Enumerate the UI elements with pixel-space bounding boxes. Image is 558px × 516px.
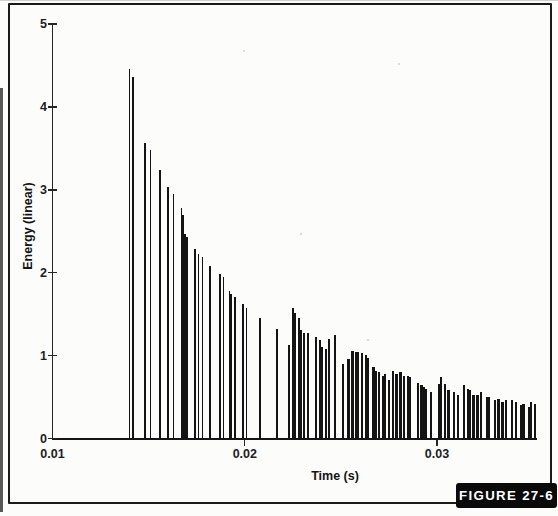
energy-spike [457,395,459,439]
energy-spike [374,371,376,440]
energy-spike [132,77,134,439]
energy-spike [469,390,471,439]
energy-spike [515,402,517,440]
energy-spike [347,359,349,440]
energy-spike [447,390,449,439]
y-tick-mark [48,106,57,108]
energy-spike [430,392,432,439]
x-tick-label: 0.03 [415,447,459,462]
energy-spike [494,400,496,439]
energy-spike [144,143,146,439]
energy-spike [223,277,225,440]
energy-spike [129,69,131,440]
y-axis-title: Energy (linear) [21,166,37,286]
energy-spike [403,376,405,440]
energy-spike [294,313,296,439]
scanned-figure-page: 0123450.010.020.03 Energy (linear) Time … [0,0,558,516]
energy-spike [497,399,499,440]
energy-spike [242,304,244,439]
energy-spike [198,254,200,440]
energy-spike [453,392,455,439]
y-tick-mark [48,355,57,357]
energy-spike [334,335,336,440]
energy-spike [534,404,536,440]
energy-spike [384,374,386,440]
x-tick-label: 0.01 [31,447,75,462]
y-tick-mark [48,438,57,440]
energy-spike [505,400,507,439]
energy-spike [511,400,513,439]
energy-spike [194,249,196,440]
y-tick-label: 5 [25,16,47,32]
energy-spike [186,237,188,439]
energy-spike [300,330,302,440]
energy-spike [480,392,482,439]
energy-spike [501,402,503,440]
energy-decay-chart: 0123450.010.020.03 [0,0,558,516]
y-tick-label: 1 [25,348,47,364]
energy-spike [288,345,290,440]
energy-spike [342,364,344,440]
energy-spike [440,377,442,439]
energy-spike [361,353,363,439]
energy-spike [303,333,305,439]
energy-spike [444,384,446,440]
energy-spike [325,349,327,440]
energy-spike [173,194,175,440]
energy-spike [357,352,359,439]
energy-spike [307,333,309,439]
energy-spike [367,358,369,439]
energy-spike [424,389,426,440]
energy-spike [488,397,490,439]
energy-spike [321,347,323,440]
energy-spike [395,374,397,440]
x-tick-mark [244,440,246,446]
energy-spike [259,318,261,439]
y-tick-mark [48,23,57,25]
y-axis-line [52,24,53,439]
figure-number-text: FIGURE 27-6 [459,488,554,503]
energy-spike [230,294,232,439]
energy-spike [150,150,152,440]
energy-spike [159,170,161,440]
energy-spike [234,297,236,440]
energy-spike [388,380,390,440]
energy-spike [399,372,401,439]
figure-number-badge: FIGURE 27-6 [456,483,557,508]
energy-spike [351,351,353,440]
energy-spike [522,404,524,440]
energy-spike [472,395,474,439]
energy-spike [315,337,317,440]
energy-spike [219,274,221,440]
energy-spike [209,266,211,439]
energy-spike [463,385,465,440]
energy-spike [417,383,419,440]
x-tick-mark [436,440,438,446]
energy-spike [378,372,380,439]
energy-spike [276,329,278,439]
y-tick-label: 4 [25,99,47,115]
x-axis-title: Time (s) [295,469,375,483]
y-tick-label: 0 [25,431,47,447]
x-tick-label: 0.02 [223,447,267,462]
energy-spike [392,371,394,440]
energy-spike [476,395,478,439]
energy-spike [167,187,169,439]
energy-spike [409,377,411,439]
energy-spike [202,257,204,440]
energy-spike [328,339,330,440]
y-tick-mark [48,272,57,274]
energy-spike [530,402,532,440]
energy-spike [246,308,248,440]
y-tick-mark [48,189,57,191]
